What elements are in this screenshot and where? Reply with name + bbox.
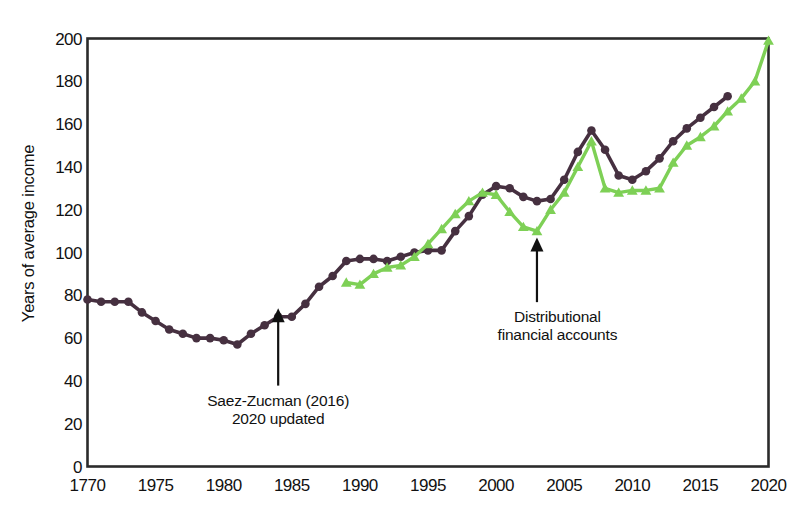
annotation-line: Distributional [498, 308, 618, 326]
data-point-marker [288, 312, 297, 321]
annotation-line: Saez-Zucman (2016) [207, 392, 349, 410]
series-2 [341, 36, 774, 289]
data-point-marker [356, 255, 365, 264]
data-point-marker [206, 334, 215, 343]
data-point-marker [165, 325, 174, 334]
data-point-marker [97, 297, 106, 306]
x-tick-label: 2015 [682, 477, 718, 494]
data-point-marker [669, 137, 678, 146]
annotation-line: financial accounts [498, 326, 618, 344]
data-point-marker [342, 257, 351, 266]
annotation-arrow-distributional-financial-accounts [530, 238, 543, 303]
y-tick-label: 200 [28, 30, 82, 47]
data-point-marker [628, 175, 637, 184]
x-tick-label: 2005 [546, 477, 582, 494]
data-point-marker [179, 330, 188, 339]
data-point-marker [642, 167, 651, 176]
data-point-marker [138, 308, 147, 317]
data-point-marker [396, 252, 405, 261]
data-point-marker [601, 145, 610, 154]
data-point-marker [749, 76, 760, 85]
data-point-marker [696, 113, 705, 122]
x-tick-label: 1980 [206, 477, 242, 494]
data-point-marker [369, 255, 378, 264]
annotation-label-saez-zucman: Saez-Zucman (2016)2020 updated [207, 392, 349, 429]
data-point-marker [614, 171, 623, 180]
plot-area [0, 0, 812, 525]
data-point-marker [451, 227, 460, 236]
data-point-marker [124, 297, 133, 306]
x-tick-label: 1995 [410, 477, 446, 494]
data-point-marker [723, 92, 732, 101]
data-point-marker [83, 295, 92, 304]
data-point-marker [574, 148, 583, 157]
x-tick-label: 2000 [478, 477, 514, 494]
data-point-marker [533, 197, 542, 206]
x-tick-label: 1770 [70, 477, 106, 494]
data-point-marker [682, 124, 691, 133]
data-point-marker [710, 103, 719, 112]
data-point-marker [492, 182, 501, 191]
series-1 [83, 92, 732, 349]
y-tick-label: 120 [28, 201, 82, 218]
data-point-marker [110, 297, 119, 306]
data-point-marker [519, 193, 528, 202]
data-point-marker [465, 212, 474, 221]
chart-container: Years of average income 0204060801001201… [0, 0, 812, 525]
data-point-marker [151, 317, 160, 326]
y-axis-tick-labels: 020406080100120140160180200 [24, 0, 82, 525]
data-point-marker [315, 282, 324, 291]
y-tick-label: 40 [28, 372, 82, 389]
data-point-marker [192, 334, 201, 343]
data-point-marker [587, 126, 596, 135]
data-point-marker [233, 340, 242, 349]
data-point-marker [301, 300, 310, 309]
data-point-marker [655, 154, 664, 163]
x-tick-label: 1990 [342, 477, 378, 494]
y-tick-label: 100 [28, 244, 82, 261]
y-tick-label: 60 [28, 330, 82, 347]
annotation-arrow-saez-zucman [272, 308, 285, 385]
y-tick-label: 180 [28, 73, 82, 90]
annotation-label-distributional-financial-accounts: Distributionalfinancial accounts [498, 308, 618, 345]
data-point-marker [437, 246, 446, 255]
data-point-marker [260, 321, 269, 330]
data-point-marker [328, 272, 337, 281]
data-point-marker [560, 175, 569, 184]
data-point-marker [505, 184, 514, 193]
y-tick-label: 80 [28, 287, 82, 304]
annotation-line: 2020 updated [207, 410, 349, 428]
x-tick-label: 1975 [138, 477, 174, 494]
data-point-marker [219, 336, 228, 345]
data-point-marker [763, 36, 774, 45]
data-series-group [83, 36, 774, 349]
x-tick-label: 2020 [751, 477, 787, 494]
y-tick-label: 0 [28, 458, 82, 475]
x-tick-label: 1985 [274, 477, 310, 494]
data-point-marker [546, 195, 555, 204]
x-axis-tick-labels: 1770197519801985199019952000200520102015… [0, 477, 812, 507]
y-tick-label: 140 [28, 158, 82, 175]
y-tick-label: 160 [28, 116, 82, 133]
y-tick-label: 20 [28, 415, 82, 432]
data-point-marker [247, 330, 256, 339]
x-tick-label: 2010 [614, 477, 650, 494]
